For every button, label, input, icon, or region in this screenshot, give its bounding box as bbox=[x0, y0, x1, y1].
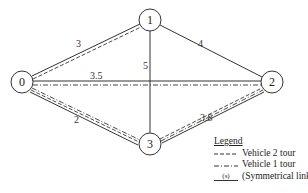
edge-label-1-2: 4 bbox=[198, 38, 203, 49]
legend-cost-label: (Symmetrical link cost) bbox=[242, 171, 308, 183]
node-3: 3 bbox=[139, 133, 161, 155]
edge-label-0-2: 3.5 bbox=[90, 70, 103, 81]
legend-row-cost: (s) (Symmetrical link cost) bbox=[214, 171, 308, 183]
svg-text:1: 1 bbox=[147, 13, 153, 27]
legend-vehicle2-label: Vehicle 2 tour bbox=[242, 148, 295, 160]
edge-0-1 bbox=[32, 24, 141, 79]
legend-vehicle1-label: Vehicle 1 tour bbox=[242, 159, 295, 171]
dashed-line-icon bbox=[214, 149, 238, 157]
edge-label-0-3: 2 bbox=[74, 114, 79, 125]
edge-0-2 bbox=[33, 81, 261, 85]
edge-1-2 bbox=[160, 25, 262, 77]
edge-0-3 bbox=[30, 88, 140, 145]
node-2: 2 bbox=[261, 71, 283, 93]
edge-label-1-3: 5 bbox=[143, 60, 148, 71]
svg-text:0: 0 bbox=[19, 75, 25, 89]
legend: Legend Vehicle 2 tour Vehicle 1 tour (s)… bbox=[214, 136, 308, 182]
dash-dot-line-icon bbox=[214, 161, 238, 169]
node-1: 1 bbox=[139, 9, 161, 31]
legend-title: Legend bbox=[214, 136, 308, 148]
edge-label-0-1: 3 bbox=[76, 38, 81, 49]
cost-symbol: (s) bbox=[214, 172, 238, 181]
node-0: 0 bbox=[11, 71, 33, 93]
svg-text:3: 3 bbox=[147, 137, 153, 151]
legend-row-vehicle1: Vehicle 1 tour bbox=[214, 159, 308, 171]
svg-text:2: 2 bbox=[269, 75, 275, 89]
legend-row-vehicle2: Vehicle 2 tour bbox=[214, 148, 308, 160]
edge-label-3-2: 3.8 bbox=[200, 112, 213, 123]
